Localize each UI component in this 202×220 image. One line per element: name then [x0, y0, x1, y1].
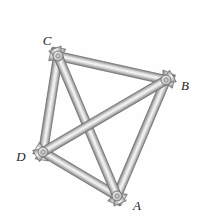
joint-D-label: D [15, 149, 26, 164]
joint-A-label: A [132, 198, 141, 213]
joint-C-hub-center [56, 54, 60, 58]
joint-D-hub-center [41, 150, 45, 154]
joint-B-hub-center [164, 78, 168, 82]
joint-B-label: B [181, 78, 189, 93]
truss-figure-svg: CBDA [0, 0, 202, 220]
joint-C-label: C [43, 33, 52, 48]
truss-diagram: CBDA [0, 0, 202, 220]
joint-A-hub-center [115, 194, 119, 198]
